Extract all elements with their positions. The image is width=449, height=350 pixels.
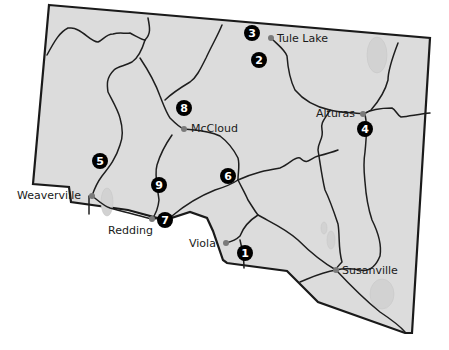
town-susanville[interactable]: Susanville (333, 264, 398, 277)
marker-1[interactable]: 1 (237, 245, 253, 261)
town-label: McCloud (191, 122, 238, 135)
marker-3[interactable]: 3 (244, 25, 260, 41)
town-label: Alturas (316, 107, 355, 120)
marker-number: 9 (155, 179, 163, 192)
marker-number: 4 (361, 123, 369, 136)
town-dot-icon (149, 216, 155, 222)
marker-4[interactable]: 4 (357, 121, 373, 137)
town-dot-icon (181, 126, 187, 132)
marker-number: 1 (241, 247, 249, 260)
town-tule-lake[interactable]: Tule Lake (268, 32, 328, 45)
marker-5[interactable]: 5 (92, 153, 108, 169)
marker-number: 8 (180, 102, 188, 115)
town-label: Viola (189, 237, 216, 250)
town-dot-icon (268, 35, 274, 41)
town-label: Redding (108, 224, 153, 237)
marker-number: 6 (224, 170, 232, 183)
town-label: Weaverville (17, 189, 81, 202)
town-dot-icon (223, 240, 229, 246)
marker-number: 7 (161, 214, 169, 227)
town-dot-icon (333, 267, 339, 273)
marker-number: 2 (255, 54, 263, 67)
marker-2[interactable]: 2 (251, 52, 267, 68)
marker-number: 5 (96, 155, 104, 168)
marker-number: 3 (248, 27, 256, 40)
region-map: Tule Lake Alturas McCloud Weaverville Re… (0, 0, 449, 350)
town-label: Susanville (342, 264, 398, 277)
town-dot-icon (89, 193, 95, 199)
marker-9[interactable]: 9 (151, 177, 167, 193)
town-label: Tule Lake (276, 32, 328, 45)
marker-7[interactable]: 7 (157, 212, 173, 228)
marker-8[interactable]: 8 (176, 100, 192, 116)
marker-6[interactable]: 6 (220, 168, 236, 184)
town-redding[interactable]: Redding (108, 216, 155, 237)
town-dot-icon (360, 111, 366, 117)
